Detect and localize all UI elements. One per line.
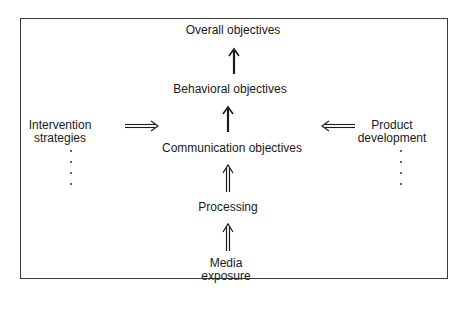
media-exposure-label: Media exposure <box>201 257 250 283</box>
intervention-line2: strategies <box>29 132 92 145</box>
dot <box>400 161 402 163</box>
intervention-strategies-label: Intervention strategies <box>29 119 92 145</box>
overall-objectives-label: Overall objectives <box>186 24 281 37</box>
dot <box>70 183 72 185</box>
dot <box>400 172 402 174</box>
hollow-up-arrow-icon <box>216 163 240 193</box>
solid-up-arrow-icon <box>216 105 240 133</box>
dot <box>70 172 72 174</box>
hollow-right-arrow-icon <box>124 119 160 133</box>
hollow-left-arrow-icon <box>320 119 356 133</box>
product-development-label: Product development <box>358 119 427 145</box>
dot <box>400 183 402 185</box>
product-line2: development <box>358 132 427 145</box>
product-continuation-dots <box>400 150 402 185</box>
dot <box>70 150 72 152</box>
dot <box>400 150 402 152</box>
intervention-continuation-dots <box>70 150 72 185</box>
behavioral-objectives-label: Behavioral objectives <box>173 83 286 96</box>
solid-up-arrow-icon <box>222 47 246 75</box>
hollow-up-arrow-icon <box>216 222 240 252</box>
processing-label: Processing <box>198 201 257 214</box>
media-exposure-line2: exposure <box>201 270 250 283</box>
dot <box>70 161 72 163</box>
communication-objectives-label: Communication objectives <box>162 142 302 155</box>
